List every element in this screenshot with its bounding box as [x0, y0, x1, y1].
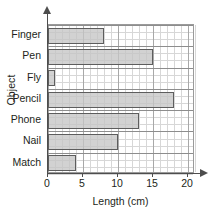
bar: [48, 70, 55, 86]
y-axis-arrow-icon: [43, 6, 51, 14]
x-axis-tick-label: 20: [173, 177, 201, 189]
y-axis-tick-label: Phone: [11, 109, 41, 130]
x-axis-tick-label: 5: [68, 177, 96, 189]
y-axis-tick-label: Finger: [11, 24, 41, 45]
y-axis-tick-label: Pencil: [12, 88, 41, 109]
gridline-minor-vertical: [195, 25, 196, 172]
x-axis-tick-label: 0: [33, 177, 61, 189]
bar: [48, 113, 139, 129]
y-axis-tick-labels: FingerPenFlyPencilPhoneNailMatch: [0, 24, 44, 173]
y-axis-tick-label: Nail: [23, 130, 41, 151]
y-axis-tick-label: Pen: [22, 45, 41, 66]
y-axis-line: [47, 13, 48, 174]
bar-chart: Object FingerPenFlyPencilPhoneNailMatch …: [0, 0, 214, 213]
gridline-minor-horizontal: [48, 174, 193, 175]
y-axis-tick-label: Fly: [27, 67, 41, 88]
x-axis-line: [47, 173, 202, 174]
x-axis-tick-label: 10: [103, 177, 131, 189]
x-axis-arrow-icon: [200, 169, 208, 177]
x-axis-title: Length (cm): [47, 195, 194, 207]
bar: [48, 155, 76, 171]
y-axis-tick-label: Match: [12, 152, 41, 173]
bar: [48, 49, 153, 65]
bar-series: [48, 25, 193, 172]
bar: [48, 92, 174, 108]
bar: [48, 134, 118, 150]
x-axis-tick-label: 15: [138, 177, 166, 189]
bar: [48, 28, 104, 44]
plot-area: [47, 24, 194, 173]
